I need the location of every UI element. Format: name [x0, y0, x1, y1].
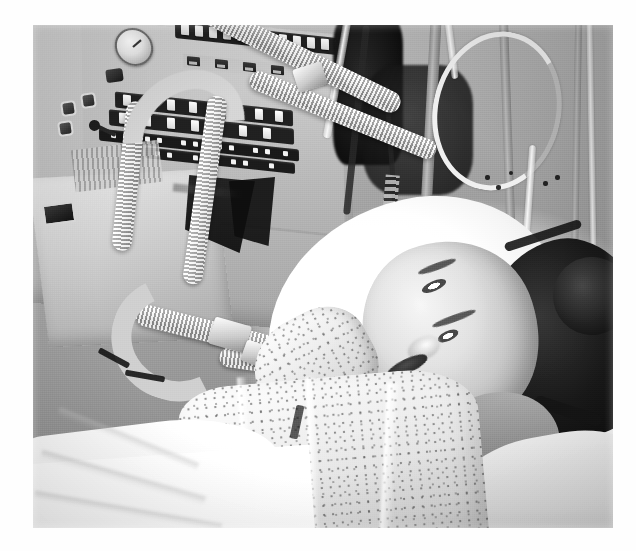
toggle-switch — [82, 94, 94, 106]
cable-clip — [555, 175, 560, 180]
control-knob — [105, 68, 124, 83]
page-canvas — [0, 0, 636, 551]
cable-clip — [543, 181, 548, 186]
equipment-nameplate — [42, 201, 77, 226]
cable-clip — [485, 175, 490, 180]
cable-clip — [496, 185, 501, 190]
toggle-switch — [62, 102, 74, 114]
cable-clip — [509, 171, 513, 175]
toggle-switch — [59, 122, 71, 134]
photograph — [33, 25, 613, 528]
